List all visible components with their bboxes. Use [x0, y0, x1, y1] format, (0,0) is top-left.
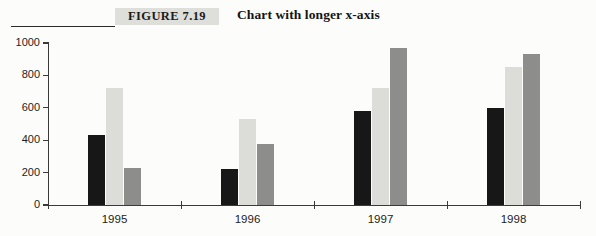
x-axis-tick — [580, 201, 581, 209]
bar — [372, 88, 389, 205]
x-axis-label: 1997 — [336, 213, 426, 226]
y-axis-tick-label-wrap: 0 — [4, 199, 40, 210]
bar — [505, 67, 522, 206]
y-axis-tick — [43, 172, 49, 173]
header-divider-rule — [11, 26, 115, 27]
y-axis-tick — [43, 42, 49, 43]
y-axis-tick-label-wrap: 600 — [4, 102, 40, 113]
bar — [487, 108, 504, 205]
bar — [354, 111, 371, 205]
y-axis-tick — [43, 107, 49, 108]
y-axis-tick — [43, 75, 49, 76]
y-axis-tick-label: 200 — [6, 167, 40, 178]
x-axis-tick — [48, 201, 49, 209]
figure-header: FIGURE 7.19 Chart with longer x-axis — [0, 0, 596, 36]
figure-caption: Chart with longer x-axis — [237, 7, 380, 23]
x-axis-label: 1996 — [203, 213, 293, 226]
bar — [257, 144, 274, 205]
bar — [239, 119, 256, 205]
y-axis-tick-label: 800 — [6, 69, 40, 80]
x-axis-label: 1995 — [70, 213, 160, 226]
figure-number-label: FIGURE 7.19 — [115, 8, 219, 25]
y-axis-tick-label-wrap: 400 — [4, 134, 40, 145]
y-axis-tick-label: 400 — [6, 134, 40, 145]
y-axis-line — [48, 42, 49, 206]
bar — [106, 88, 123, 205]
bar — [221, 169, 238, 205]
x-axis-tick — [447, 201, 448, 209]
y-axis-tick — [43, 140, 49, 141]
y-axis-tick-label-wrap: 1000 — [4, 37, 40, 48]
x-axis-tick — [181, 201, 182, 209]
bar — [88, 135, 105, 205]
y-axis-tick-label: 1000 — [6, 37, 40, 48]
x-axis-label: 1998 — [469, 213, 559, 226]
y-axis-tick-label: 600 — [6, 102, 40, 113]
bar — [390, 48, 407, 205]
bar-chart: 02004006008001000 1995199619971998 — [0, 36, 596, 236]
bar — [124, 168, 141, 205]
y-axis-tick-label-wrap: 200 — [4, 167, 40, 178]
bar — [523, 54, 540, 205]
y-axis-tick-label-wrap: 800 — [4, 69, 40, 80]
x-axis-tick — [314, 201, 315, 209]
y-axis-tick-label: 0 — [6, 199, 40, 210]
